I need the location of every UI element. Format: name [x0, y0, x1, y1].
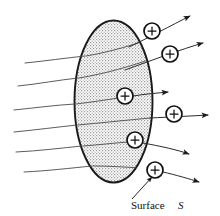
surface-label-symbol: S	[178, 199, 184, 211]
surface-label: Surface S	[131, 199, 184, 211]
field-line-in-2	[18, 78, 78, 86]
charge-1	[144, 23, 160, 39]
callout-arrow	[132, 177, 152, 199]
figure-container: Surface S	[0, 0, 220, 216]
field-line-in-4	[14, 125, 77, 132]
field-line-out-5	[143, 143, 189, 154]
field-line-in-1	[25, 56, 85, 63]
gaussian-surface	[75, 21, 153, 183]
field-line-in-5	[16, 146, 82, 152]
charge-2	[162, 46, 178, 62]
surface-label-text: Surface	[131, 199, 165, 211]
charge-4	[166, 106, 182, 122]
surface-callout	[132, 177, 152, 199]
charge-5	[127, 132, 143, 148]
charge-3	[117, 88, 133, 104]
field-line-in-6	[24, 166, 92, 172]
charge-6	[147, 162, 163, 178]
field-line-in-3	[14, 104, 75, 110]
surface-ellipse	[75, 21, 153, 183]
electric-flux-diagram: Surface S	[0, 0, 220, 216]
field-line-out-6	[163, 172, 199, 182]
